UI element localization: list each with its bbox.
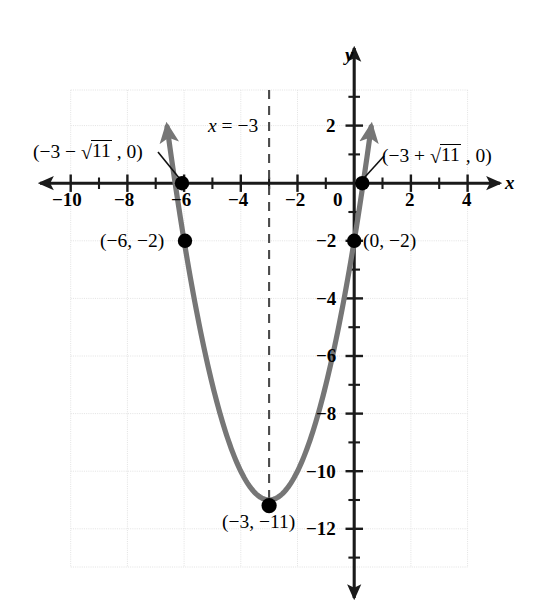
x-tick-label-neg10: −10 <box>52 190 82 209</box>
y-tick-label-2: 2 <box>326 116 336 135</box>
x-tick-label-2: 2 <box>405 190 415 209</box>
y-tick-label-neg2: −2 <box>316 231 336 250</box>
right-x-intercept-label: (−3 + √11 , 0) <box>382 145 492 166</box>
point-y-intercept <box>347 234 361 248</box>
left-x-intercept-prefix: (−3 − <box>33 141 81 162</box>
x-tick-label-neg6: −6 <box>171 190 191 209</box>
square-root-icon: √11 <box>81 141 112 162</box>
y-axis-label: y <box>345 45 353 64</box>
axis-of-symmetry-label: x = −3 <box>208 116 258 136</box>
axis-of-symmetry-variable: x <box>208 115 217 136</box>
left-x-intercept-label: (−3 − √11 , 0) <box>33 141 143 162</box>
y-tick-label-neg4: −4 <box>316 289 336 308</box>
x-axis-label: x <box>505 173 515 192</box>
point-right-x-intercept <box>355 176 369 190</box>
vertex-label: (−3, −11) <box>222 512 295 532</box>
y-tick-label-neg8: −8 <box>316 404 336 423</box>
y-intercept-label: (0, −2) <box>363 231 416 251</box>
left-x-intercept-radicand: 11 <box>91 140 112 161</box>
leader-lines <box>158 152 384 183</box>
x-tick-label-4: 4 <box>462 190 472 209</box>
axis-of-symmetry-value: = −3 <box>217 115 259 136</box>
left-x-intercept-suffix: , 0) <box>112 141 143 162</box>
x-tick-label-0: 0 <box>333 190 343 209</box>
right-x-intercept-radicand: 11 <box>440 144 461 165</box>
point-neg6-neg2-label: (−6, −2) <box>100 231 164 251</box>
point-neg6-neg2 <box>178 234 192 248</box>
x-tick-label-neg8: −8 <box>114 190 134 209</box>
x-tick-label-neg2: −2 <box>285 190 305 209</box>
y-tick-label-neg12: −12 <box>306 519 336 538</box>
y-tick-label-neg6: −6 <box>316 346 336 365</box>
graph-figure: −10 −8 −6 −4 −2 0 2 4 2 −2 −4 −6 −8 −10 … <box>0 0 533 614</box>
y-tick-label-neg10: −10 <box>306 462 336 481</box>
right-x-intercept-suffix: , 0) <box>461 145 492 166</box>
x-tick-label-neg4: −4 <box>228 190 248 209</box>
square-root-icon: √11 <box>430 145 461 166</box>
right-x-intercept-prefix: (−3 + <box>382 145 430 166</box>
